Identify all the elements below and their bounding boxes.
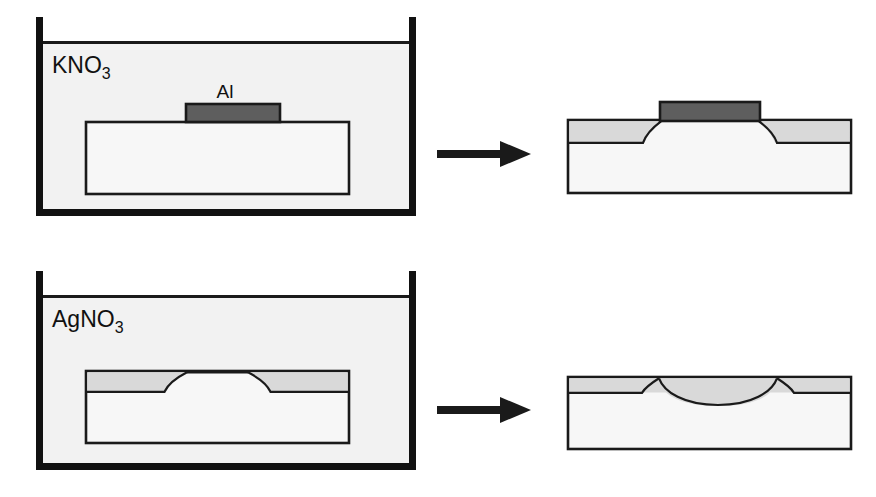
agno3-label-subscript: 3 bbox=[115, 319, 124, 336]
agno3-substrate-group bbox=[86, 371, 349, 443]
aluminum-label: Al bbox=[217, 81, 234, 102]
process-diagram: KNO3 Al bbox=[0, 0, 876, 497]
agno3-label: AgNO3 bbox=[52, 306, 124, 336]
kno3-result-group bbox=[568, 102, 851, 193]
agno3-row: AgNO3 bbox=[36, 271, 851, 470]
figure-canvas: KNO3 Al bbox=[0, 0, 876, 497]
kno3-result-aluminum-bar bbox=[660, 102, 760, 121]
kno3-label-text: KNO bbox=[52, 52, 102, 78]
kno3-label-subscript: 3 bbox=[102, 65, 111, 82]
agno3-result-group bbox=[568, 377, 851, 449]
process-arrow-bottom bbox=[437, 397, 531, 423]
process-arrow-bottom-shaft bbox=[437, 406, 505, 414]
process-arrow-top-head bbox=[500, 141, 531, 167]
kno3-beaker-bottom bbox=[36, 209, 416, 216]
agno3-beaker-bottom bbox=[36, 463, 416, 470]
kno3-row: KNO3 Al bbox=[36, 17, 851, 216]
agno3-label-text: AgNO bbox=[52, 306, 115, 332]
kno3-aluminum-bar bbox=[186, 104, 280, 122]
kno3-beaker-right-wall bbox=[409, 17, 416, 216]
kno3-substrate-block bbox=[86, 122, 349, 194]
process-arrow-bottom-head bbox=[500, 397, 531, 423]
kno3-beaker-left-wall bbox=[36, 17, 43, 216]
process-arrow-top bbox=[437, 141, 531, 167]
process-arrow-top-shaft bbox=[437, 150, 505, 158]
agno3-beaker-left-wall bbox=[36, 271, 43, 470]
agno3-beaker-right-wall bbox=[409, 271, 416, 470]
